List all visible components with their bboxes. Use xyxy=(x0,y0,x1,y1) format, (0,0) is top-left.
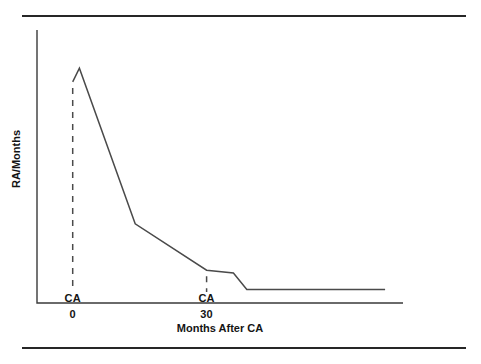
figure-container: RA/Months CA 0 CA 30 Months After CA xyxy=(0,0,481,364)
chart-axes xyxy=(37,30,403,303)
data-series-line xyxy=(73,68,385,289)
x-tick-label-30: 30 xyxy=(200,308,213,320)
x-tick-label-0: 0 xyxy=(70,308,76,320)
y-axis-label: RA/Months xyxy=(10,130,22,188)
event-label-ca-first: CA xyxy=(65,292,81,304)
x-axis-label: Months After CA xyxy=(177,322,263,334)
event-label-ca-second: CA xyxy=(198,292,214,304)
